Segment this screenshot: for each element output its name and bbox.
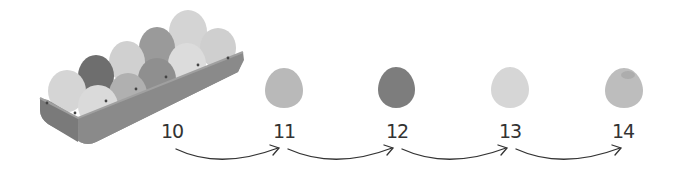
diagram-svg <box>0 0 674 175</box>
number-label: 14 <box>612 120 634 142</box>
arrow-icon <box>176 145 279 159</box>
number-label: 11 <box>273 120 295 142</box>
egg-icon <box>491 67 529 108</box>
arrow-icon <box>288 145 393 159</box>
arrow-icon <box>516 145 621 159</box>
arrow-icon <box>402 145 507 159</box>
number-label: 13 <box>499 120 521 142</box>
egg-icon <box>378 67 415 108</box>
number-label: 12 <box>386 120 408 142</box>
hop-arrows <box>176 145 621 159</box>
egg-carton <box>40 10 244 144</box>
number-label: 10 <box>161 120 183 142</box>
egg-icon <box>265 68 303 108</box>
number-line-diagram: 10 11 12 13 14 <box>0 0 674 175</box>
single-eggs <box>265 67 643 108</box>
